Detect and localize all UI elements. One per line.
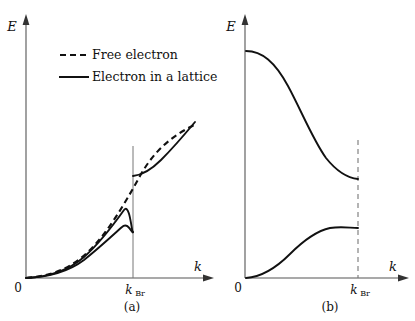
panel-b-caption: (b) bbox=[321, 300, 338, 314]
figure-root: E k 0 k Br Free electro bbox=[0, 0, 415, 321]
panel-b-x-axis-arrowhead bbox=[398, 275, 409, 282]
legend: Free electron Electron in a lattice bbox=[59, 47, 217, 84]
panel-a-origin-label: 0 bbox=[14, 281, 22, 295]
panel-b-origin-label: 0 bbox=[234, 281, 242, 295]
panel-a-bragg-tick-label: k Br bbox=[125, 283, 145, 298]
panel-a-free-electron-curve bbox=[26, 124, 196, 278]
panel-b-y-axis-arrowhead bbox=[242, 14, 249, 25]
dispersion-figure: E k 0 k Br Free electro bbox=[0, 0, 415, 321]
panel-a-lattice-lower-band bbox=[26, 209, 133, 278]
panel-b-bragg-tick-label: k Br bbox=[350, 283, 370, 298]
panel-b-bragg-tick-main: k bbox=[350, 283, 357, 297]
legend-label-free-electron: Free electron bbox=[92, 47, 178, 62]
panel-a-y-axis-arrowhead bbox=[23, 14, 30, 25]
panel-a-x-axis-arrowhead bbox=[203, 275, 214, 282]
panel-b: E k 0 k Br bbox=[225, 14, 409, 298]
panel-a-lattice-upper-band bbox=[133, 122, 195, 176]
panel-a-bragg-tick-sub: Br bbox=[135, 289, 145, 298]
legend-label-lattice-electron: Electron in a lattice bbox=[92, 69, 217, 84]
panel-b-upper-band bbox=[246, 51, 358, 179]
panel-a-lattice-lower-band-tail bbox=[26, 225, 133, 278]
panel-a-bragg-tick-main: k bbox=[125, 283, 132, 297]
panel-b-x-axis-label: k bbox=[389, 259, 397, 274]
panel-a-x-axis-label: k bbox=[194, 259, 202, 274]
panel-a-y-axis-label: E bbox=[6, 19, 17, 34]
panel-a-caption: (a) bbox=[124, 300, 141, 314]
panel-b-y-axis-label: E bbox=[225, 19, 236, 34]
panel-b-bragg-tick-sub: Br bbox=[360, 289, 370, 298]
panel-b-lower-band bbox=[246, 227, 358, 278]
